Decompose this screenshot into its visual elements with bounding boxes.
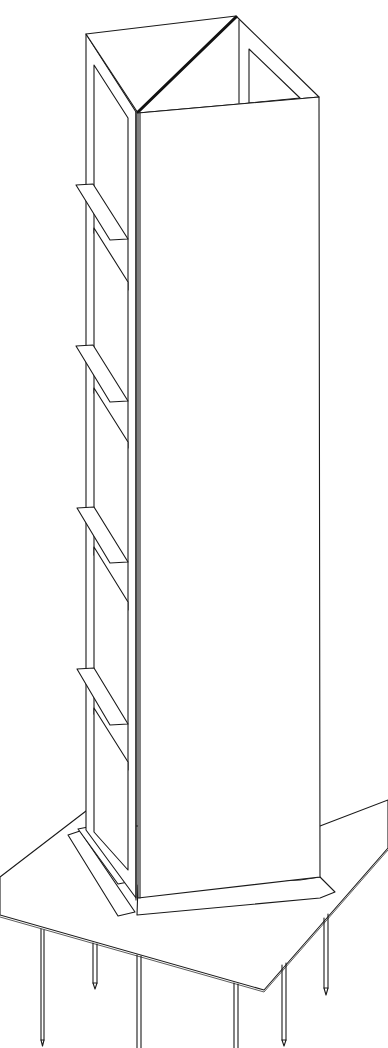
stake-icon — [282, 963, 286, 1046]
stake-icon — [324, 914, 328, 995]
front-face — [136, 97, 320, 900]
stake-icon — [41, 929, 44, 1046]
windowed-face — [76, 34, 136, 898]
stake-icon — [137, 955, 141, 1048]
stake-icon — [234, 983, 238, 1048]
diagram-canvas — [0, 0, 388, 1048]
window-frames — [94, 65, 128, 870]
stake-icon — [93, 943, 97, 989]
tower-drawing — [0, 0, 388, 1048]
